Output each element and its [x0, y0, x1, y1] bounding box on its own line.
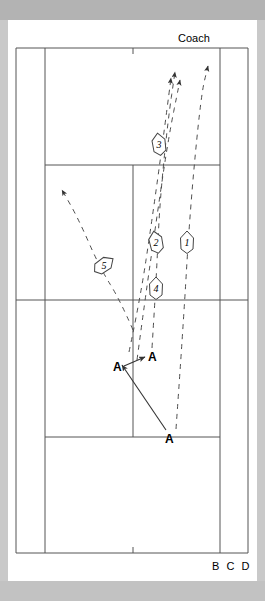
ball-marker-number: 4: [154, 283, 159, 294]
player-a-left-near-net: A: [113, 360, 122, 374]
trajectory-shot-2: [137, 80, 180, 360]
player-a-right-near-net: A: [148, 350, 157, 364]
ball-marker-number: 2: [154, 237, 159, 248]
ball-marker-layer: 12345: [91, 132, 194, 299]
ball-marker-3: 3: [151, 132, 167, 156]
player-a-baseline: A: [165, 432, 174, 446]
ball-marker-number: 5: [102, 260, 107, 271]
trajectory-shot-4: [152, 72, 175, 348]
court-lines: [16, 48, 248, 553]
coach-label: Coach: [178, 32, 210, 44]
ball-marker-number: 1: [185, 237, 190, 248]
footer-legend-label: B C D: [212, 560, 251, 572]
ball-marker-4: 4: [150, 277, 163, 300]
court-drawing: 12345: [0, 0, 265, 601]
trajectory-shot-3: [129, 78, 171, 352]
ball-marker-number: 3: [156, 139, 162, 150]
trajectory-shot-crosscourt: [124, 357, 145, 366]
trajectory-shot-5: [62, 190, 133, 330]
trajectory-shot-return: [122, 365, 166, 430]
tennis-drill-diagram: 12345 Coach B C D AAA: [0, 0, 265, 601]
ball-marker-1: 1: [181, 231, 194, 254]
